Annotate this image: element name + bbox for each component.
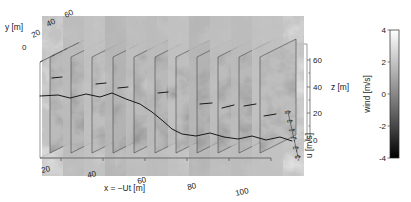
colorbar-tick-label: 4: [382, 26, 387, 35]
z-tick-label: 40: [313, 83, 322, 92]
u-tick-label: -1: [290, 136, 297, 142]
u-tick-label: 5: [284, 110, 291, 114]
z-tick-label: 20: [313, 109, 322, 118]
slice-plot-svg: 60 40 20 0 y [m] 20 40 60 80 100 x = −Ut…: [0, 0, 411, 202]
colorbar-tick-label: -2: [379, 122, 387, 131]
y-axis-label: y [m]: [5, 22, 23, 32]
slice-planes-group: [50, 39, 296, 153]
u-tick-label: -5: [294, 155, 301, 161]
u-axis-label: u [m/s]: [304, 133, 314, 158]
u-tick-label: 1: [288, 128, 295, 132]
slice-plane: [260, 39, 296, 153]
colorbar-gradient: [390, 30, 399, 158]
colorbar-tick-label: 0: [382, 90, 387, 99]
colorbar-tick-label: 2: [382, 58, 387, 67]
colorbar-label: wind [m/s]: [362, 75, 372, 114]
x-axis-label: x = −Ut [m]: [104, 183, 145, 193]
y-tick-label: 0: [22, 43, 27, 52]
u-tick-label: 3: [286, 119, 293, 123]
z-tick-label: 60: [313, 56, 322, 65]
figure-canvas: 60 40 20 0 y [m] 20 40 60 80 100 x = −Ut…: [0, 0, 411, 202]
colorbar-tick-label: -4: [379, 154, 387, 163]
z-axis-label: z [m]: [331, 82, 349, 92]
u-tick-label: -3: [292, 146, 299, 152]
